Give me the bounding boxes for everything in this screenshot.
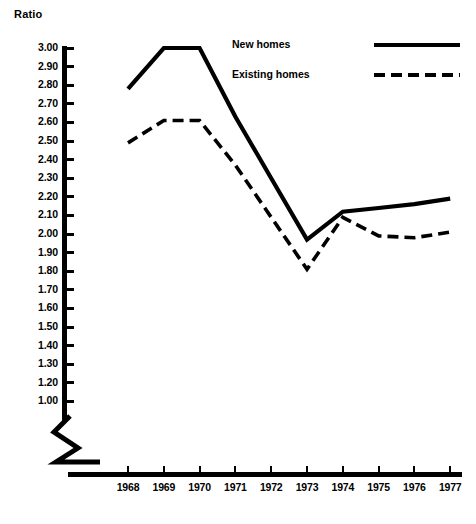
chart-legend: New homes Existing homes	[232, 36, 462, 96]
chart-figure: Ratio 3.002.902.802.702.602.502.402.302.…	[0, 0, 476, 524]
legend-swatch-solid-icon	[374, 43, 460, 47]
legend-item-new-homes: New homes	[232, 36, 462, 66]
series-line-existing-homes	[128, 121, 450, 270]
legend-label-existing-homes: Existing homes	[232, 68, 310, 80]
legend-swatch-dashed-icon	[374, 73, 460, 77]
legend-label-new-homes: New homes	[232, 38, 290, 50]
legend-item-existing-homes: Existing homes	[232, 66, 462, 96]
